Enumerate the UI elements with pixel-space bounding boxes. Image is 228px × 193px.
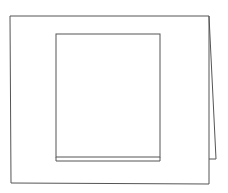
card-drawing: [0, 0, 228, 193]
outer-frame: [10, 16, 209, 184]
inner-window-bottom-edge: [56, 157, 160, 161]
inner-window: [56, 34, 160, 157]
fold-flap: [209, 16, 216, 159]
